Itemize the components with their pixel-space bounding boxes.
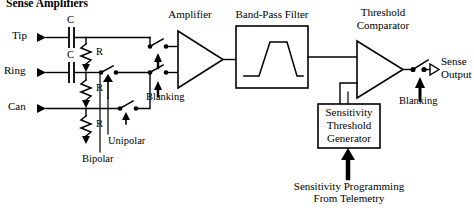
- bandpass-filter-block: [236, 26, 308, 88]
- resistor-label-tip: R: [96, 46, 103, 57]
- tip-input-arrow: [37, 33, 46, 42]
- programming-arrow-head: [341, 148, 355, 160]
- bandpass-filter-label: Band-Pass Filter: [235, 9, 308, 21]
- sense-output-label-line1: Sense: [441, 56, 467, 68]
- input-label-tip: Tip: [12, 30, 27, 42]
- resistor-tip-arrow: [82, 64, 90, 72]
- blanking-label-output: Blanking: [399, 95, 438, 106]
- blanking-switch-lower-blade[interactable]: [150, 65, 163, 73]
- blanking-actuator-arrow-lower: [154, 81, 162, 90]
- resistor-label-low: R: [96, 118, 103, 129]
- comparator-label-line2: Comparator: [357, 20, 410, 32]
- stg-label-line2: Threshold: [327, 120, 372, 132]
- ring-switch-blade[interactable]: [101, 66, 113, 73]
- diagram-canvas: Sense Amplifiers Tip Ring Can C C R R R …: [0, 0, 474, 208]
- sense-output-buffer-symbol: [430, 64, 439, 75]
- input-label-can: Can: [8, 101, 26, 113]
- resistor-mid-zigzag: [81, 80, 91, 100]
- unipolar-actuator-arrow-can: [122, 112, 130, 120]
- page-title: Sense Amplifiers: [6, 0, 88, 9]
- ring-input-arrow: [37, 68, 46, 77]
- capacitor-label-ring: C: [67, 49, 74, 60]
- amplifier-symbol: [178, 31, 223, 88]
- blanking-switch-upper-blade[interactable]: [150, 39, 163, 47]
- threshold-comparator-symbol: [357, 41, 403, 98]
- resistor-low-arrow: [82, 136, 90, 144]
- blanking-actuator-arrow-upper: [154, 53, 162, 62]
- stg-label-line1: Sensitivity: [325, 107, 372, 119]
- output-blanking-arrow: [415, 77, 425, 88]
- resistor-low-zigzag: [81, 116, 91, 136]
- can-input-arrow: [37, 104, 46, 113]
- resistor-mid-arrow: [82, 100, 90, 108]
- resistor-tip-zigzag: [81, 44, 91, 64]
- blanking-label-input: Blanking: [146, 91, 185, 102]
- unipolar-label: Unipolar: [108, 135, 145, 146]
- resistor-label-mid: R: [96, 82, 103, 93]
- bipolar-label: Bipolar: [82, 153, 114, 164]
- programming-annotation-line2: From Telemetry: [314, 193, 385, 205]
- can-switch-blade[interactable]: [120, 101, 133, 109]
- amplifier-label: Amplifier: [168, 9, 211, 21]
- capacitor-label-tip: C: [67, 14, 74, 25]
- input-label-ring: Ring: [4, 65, 25, 77]
- sense-output-label-line2: Output: [441, 69, 472, 81]
- comparator-label-line1: Threshold: [361, 7, 406, 19]
- stg-label-line3: Generator: [327, 133, 371, 145]
- unipolar-actuator-arrow-ring: [103, 74, 113, 82]
